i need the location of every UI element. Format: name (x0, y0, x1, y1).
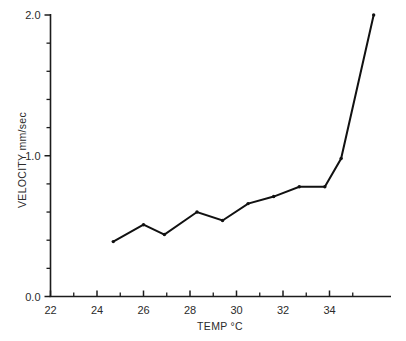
data-point-marker (142, 223, 145, 226)
y-tick-label: 0.0 (25, 291, 40, 303)
x-tick-label: 28 (184, 304, 196, 316)
data-point-marker (246, 202, 249, 205)
data-point-marker (372, 13, 375, 16)
x-axis-title: TEMP °C (197, 320, 243, 332)
x-axis: 22242628303234 (44, 291, 391, 316)
velocity-vs-temperature-line-chart: 0.01.02.0 22242628303234 TEMP °C VELOCIT… (0, 0, 406, 341)
x-axis-tick-labels: 22242628303234 (44, 304, 335, 316)
y-axis-title: VELOCITY mm/sec (16, 112, 28, 208)
y-axis: 0.01.02.0 (25, 9, 50, 303)
x-axis-ticks (51, 291, 353, 297)
x-tick-label: 22 (44, 304, 56, 316)
x-tick-label: 32 (277, 304, 289, 316)
x-tick-label: 34 (323, 304, 335, 316)
chart-figure: 0.01.02.0 22242628303234 TEMP °C VELOCIT… (0, 0, 406, 341)
data-point-marker (221, 219, 224, 222)
data-point-marker (163, 233, 166, 236)
data-point-marker (298, 185, 301, 188)
data-point-marker (323, 185, 326, 188)
x-tick-label: 30 (230, 304, 242, 316)
data-series-group (112, 13, 376, 243)
y-axis-ticks (45, 15, 51, 297)
x-tick-label: 26 (137, 304, 149, 316)
data-point-marker (272, 195, 275, 198)
data-point-marker (195, 210, 198, 213)
velocity-series-line (113, 15, 373, 242)
y-tick-label: 2.0 (25, 9, 40, 21)
data-point-marker (339, 157, 342, 160)
data-point-marker (112, 240, 115, 243)
x-tick-label: 24 (91, 304, 103, 316)
velocity-series-markers (112, 13, 376, 243)
